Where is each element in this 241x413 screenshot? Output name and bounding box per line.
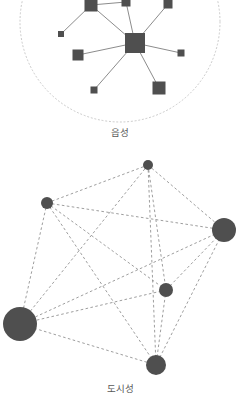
network-edge <box>47 165 148 203</box>
network-edge <box>166 230 224 290</box>
network-edge <box>20 230 224 324</box>
network-node <box>91 87 98 94</box>
network-node <box>125 33 145 53</box>
network-node <box>153 82 166 95</box>
network-node <box>159 283 173 297</box>
urban-network-panel <box>0 150 241 413</box>
network-node <box>58 31 64 37</box>
network-edge <box>20 203 47 324</box>
urban-network-graph <box>0 150 241 413</box>
network-node <box>3 307 37 341</box>
network-edge <box>156 230 224 365</box>
network-node <box>212 218 236 242</box>
rural-boundary-circle <box>20 0 220 122</box>
network-node <box>143 160 153 170</box>
network-edge <box>20 324 156 365</box>
network-edge <box>47 203 224 230</box>
network-edge <box>148 165 224 230</box>
rural-panel-caption: 읍성 <box>0 127 241 138</box>
network-edge <box>20 165 148 324</box>
network-node <box>178 50 185 57</box>
network-node <box>41 197 53 209</box>
network-node <box>85 0 98 12</box>
network-edge <box>47 203 156 365</box>
network-node <box>164 0 173 9</box>
network-edge <box>156 290 166 365</box>
urban-panel-caption: 도시성 <box>0 383 241 394</box>
network-node <box>73 50 84 61</box>
network-comparison-figure: 읍성 도시성 <box>0 0 241 413</box>
network-node <box>146 355 166 375</box>
network-edge <box>20 290 166 324</box>
network-node <box>122 0 131 7</box>
